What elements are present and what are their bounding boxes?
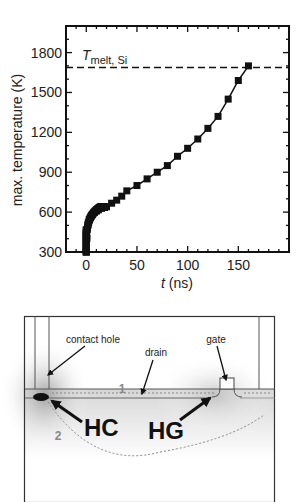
path-1-label: 1 xyxy=(119,382,126,396)
gate-box xyxy=(220,378,234,389)
gate-label: gate xyxy=(206,334,226,345)
svg-text:600: 600 xyxy=(39,204,63,220)
device-cross-section-diagram: contact hole drain gate 1 2 HC HG xyxy=(0,300,301,502)
hc-label: HC xyxy=(84,414,119,441)
x-axis-label: t (ns) xyxy=(161,275,193,291)
tick-labels: 050100150300600900120015001800 xyxy=(31,45,250,273)
svg-text:1800: 1800 xyxy=(31,45,62,61)
contact-hole-label: contact hole xyxy=(66,334,120,345)
svg-text:300: 300 xyxy=(39,244,63,260)
svg-text:1500: 1500 xyxy=(31,84,62,100)
temperature-chart: 050100150300600900120015001800 Tmelt, Si… xyxy=(0,0,301,300)
melt-label: Tmelt, Si xyxy=(82,47,127,66)
hg-label: HG xyxy=(148,417,184,444)
data-markers xyxy=(83,62,252,255)
y-axis-label: max. temperature (K) xyxy=(9,74,25,206)
data-line xyxy=(86,66,248,252)
path-2-label: 2 xyxy=(55,429,62,443)
svg-text:1200: 1200 xyxy=(31,124,62,140)
svg-text:900: 900 xyxy=(39,164,63,180)
svg-text:100: 100 xyxy=(176,257,200,273)
hot-contact-blob xyxy=(33,393,49,401)
svg-text:50: 50 xyxy=(129,257,145,273)
svg-text:150: 150 xyxy=(227,257,251,273)
svg-text:0: 0 xyxy=(82,257,90,273)
drain-label: drain xyxy=(145,347,167,358)
